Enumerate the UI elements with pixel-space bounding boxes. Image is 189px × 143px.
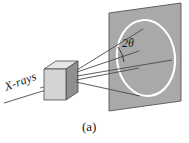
two-theta-label: 2θ (122, 36, 134, 51)
figure-caption: (a) (82, 119, 96, 135)
xrd-figure: X-rays 2θ (a) (0, 0, 189, 143)
crystal-front-face (44, 69, 66, 100)
